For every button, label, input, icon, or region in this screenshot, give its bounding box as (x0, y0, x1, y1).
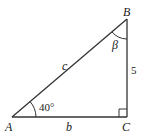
vertex-b-label: B (123, 5, 131, 19)
side-b-label: b (66, 120, 72, 134)
vertex-a-label: A (4, 120, 13, 134)
side-c-label: c (62, 59, 68, 73)
side-vertical-label: 5 (131, 64, 137, 76)
triangle (12, 19, 127, 117)
side-c (12, 19, 127, 117)
right-angle-marker (119, 109, 127, 117)
angle-a-arc (30, 102, 36, 118)
vertex-c-label: C (122, 120, 131, 134)
triangle-diagram: B A C c b 5 40° β (0, 0, 142, 136)
angle-b-label: β (111, 38, 118, 52)
angle-a-label: 40° (39, 101, 54, 113)
